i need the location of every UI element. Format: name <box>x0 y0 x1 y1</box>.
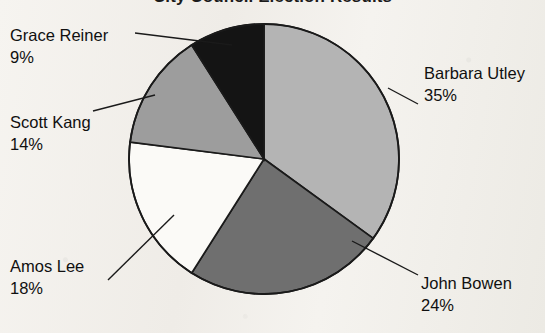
pie-label-barbara-utley-value: 35% <box>424 84 525 106</box>
pie-label-john-bowen: John Bowen 24% <box>421 272 512 317</box>
pie-label-amos-lee: Amos Lee 18% <box>10 255 84 300</box>
pie-label-scott-kang-name: Scott Kang <box>10 111 91 133</box>
pie-label-john-bowen-value: 24% <box>421 294 512 316</box>
pie-label-john-bowen-name: John Bowen <box>421 272 512 294</box>
leader-line-john-bowen <box>352 241 418 275</box>
pie-label-barbara-utley-name: Barbara Utley <box>424 62 525 84</box>
pie-label-grace-reiner-name: Grace Reiner <box>10 24 108 46</box>
pie-label-grace-reiner-value: 9% <box>10 46 108 68</box>
pie-chart-figure: City Council Election Results Grace Rein… <box>0 0 545 333</box>
pie-label-grace-reiner: Grace Reiner 9% <box>10 24 108 69</box>
pie-label-barbara-utley: Barbara Utley 35% <box>424 62 525 107</box>
pie-label-amos-lee-value: 18% <box>10 277 84 299</box>
pie-label-scott-kang-value: 14% <box>10 133 91 155</box>
leader-line-barbara-utley <box>388 88 418 104</box>
pie-label-amos-lee-name: Amos Lee <box>10 255 84 277</box>
chart-title: City Council Election Results <box>0 0 545 7</box>
pie-label-scott-kang: Scott Kang 14% <box>10 111 91 156</box>
